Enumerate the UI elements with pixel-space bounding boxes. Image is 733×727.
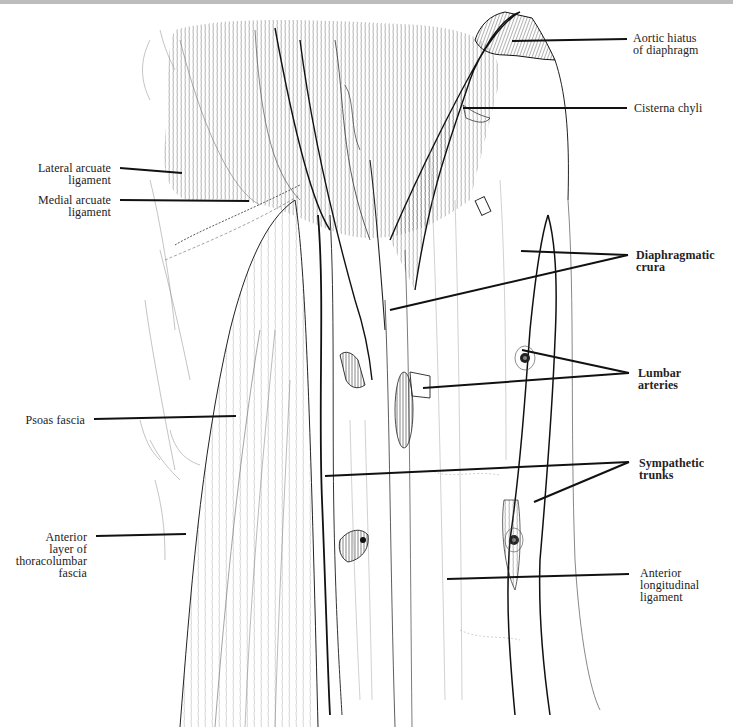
label-diaphragmatic-crura: Diaphragmatic crura: [636, 249, 715, 273]
anatomical-illustration: [0, 0, 733, 727]
left-sympathetic-trunk: [318, 215, 330, 715]
vessel-stub: [475, 197, 491, 216]
label-medial-arcuate-ligament: Medial arcuate ligament: [38, 194, 111, 218]
label-cisterna-chyli: Cisterna chyli: [634, 102, 702, 114]
lumbar-artery-upper-right: [515, 346, 535, 370]
label-sympathetic-trunks: Sympathetic trunks: [639, 457, 704, 481]
label-psoas-fascia: Psoas fascia: [25, 414, 85, 426]
lumbar-artery-lower-right: [503, 500, 523, 590]
right-sympathetic-trunk: [508, 200, 600, 715]
label-anterior-layer-thoracolumbar-fascia: Anterior layer of thoracolumbar fascia: [16, 531, 87, 579]
label-aortic-hiatus: Aortic hiatus of diaphragm: [633, 32, 699, 56]
lumbar-artery-stubs: [339, 352, 430, 562]
psoas-muscle: [180, 200, 318, 727]
label-lumbar-arteries: Lumbar arteries: [638, 367, 681, 391]
label-lateral-arcuate-ligament: Lateral arcuate ligament: [38, 162, 111, 186]
label-anterior-longitudinal-ligament: Anterior longitudinal ligament: [640, 567, 699, 603]
